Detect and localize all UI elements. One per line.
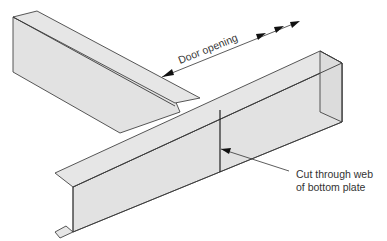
arrowhead-right-icon bbox=[256, 33, 266, 40]
bottom-plate-diagram: Door opening Cut through web of bottom p… bbox=[0, 0, 387, 241]
cut-label-line2: of bottom plate bbox=[296, 181, 366, 193]
arrowhead-right-icon bbox=[274, 26, 284, 33]
cut-label-line1: Cut through web bbox=[296, 168, 373, 180]
arrowhead-right-icon bbox=[290, 21, 300, 28]
door-opening-arrow bbox=[162, 21, 300, 77]
door-opening-label: Door opening bbox=[176, 31, 239, 66]
arrowhead-left-icon bbox=[162, 69, 174, 77]
